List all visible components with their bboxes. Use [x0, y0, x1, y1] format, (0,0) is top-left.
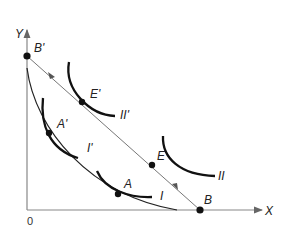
point-A-prime [46, 130, 52, 136]
label-B: B [204, 193, 212, 207]
point-A [115, 191, 121, 197]
point-B-prime [23, 52, 30, 59]
label-I: I [160, 189, 164, 203]
diagram-canvas: Y X 0 B' B A' E' E A I' II' II I [0, 0, 291, 237]
label-B-prime: B' [34, 41, 45, 55]
label-A-prime: A' [56, 117, 68, 131]
x-axis-label: X [264, 204, 274, 218]
label-E: E [157, 149, 166, 163]
y-axis-label: Y [15, 27, 24, 41]
label-II-prime: II' [120, 108, 130, 122]
budget-arrow-upper [48, 72, 55, 79]
transformation-curve [27, 68, 177, 210]
origin-label: 0 [27, 215, 33, 227]
indifference-curve-II [163, 136, 215, 176]
point-B [196, 206, 203, 213]
point-E-prime [79, 99, 85, 105]
label-II: II [218, 169, 225, 183]
label-I-prime: I' [87, 141, 93, 155]
point-E [149, 162, 155, 168]
label-E-prime: E' [90, 87, 101, 101]
label-A: A [123, 177, 132, 191]
